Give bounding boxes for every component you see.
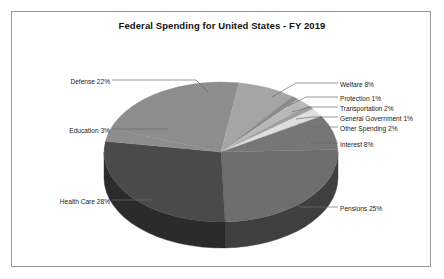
slice-label-education: Education 3% (18, 127, 110, 134)
slice-label-transportation: Transportation 2% (340, 105, 394, 112)
pie-chart (0, 0, 444, 279)
slice-label-other-spending: Other Spending 2% (340, 125, 398, 132)
slice-label-welfare: Welfare 8% (340, 81, 374, 88)
slice-label-health-care: Health Care 28% (10, 198, 110, 205)
slice-label-protection: Protection 1% (340, 95, 381, 102)
slice-label-general-government: General Government 1% (340, 115, 413, 122)
slice-label-pensions: Pensions 25% (340, 205, 382, 212)
slice-label-interest: Interest 8% (340, 141, 373, 148)
slice-label-defense: Defense 22% (18, 78, 110, 85)
